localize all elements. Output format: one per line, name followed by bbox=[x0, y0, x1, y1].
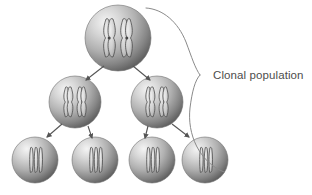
arrow-g2-to-g3-a bbox=[47, 124, 62, 137]
chromatid-left-b bbox=[94, 147, 98, 172]
chromosome-pair bbox=[90, 147, 103, 172]
chromatid-right-a bbox=[99, 147, 103, 172]
chromatid-right-a bbox=[39, 147, 43, 172]
chromosome-pair bbox=[147, 147, 160, 172]
chromosome-pair bbox=[30, 147, 43, 172]
chromatid-left-a bbox=[30, 147, 34, 172]
cell-g1-1 bbox=[85, 5, 151, 71]
cell-g3-2 bbox=[72, 137, 118, 183]
arrow-g1-to-g2-right bbox=[133, 66, 150, 80]
chromatid-left-a bbox=[200, 147, 204, 172]
chromatid-right-a bbox=[209, 147, 213, 172]
centromere-right bbox=[125, 37, 128, 40]
cell-g2-2 bbox=[131, 76, 183, 128]
chromatid-left-b bbox=[34, 147, 38, 172]
arrow-g2-to-g3-d bbox=[172, 124, 189, 137]
clonal-population-figure: Clonal population bbox=[0, 0, 312, 195]
cell-membrane bbox=[49, 76, 101, 128]
chromatid-right-a bbox=[156, 147, 160, 172]
cell-g2-1 bbox=[49, 76, 101, 128]
cell-g3-1 bbox=[12, 137, 58, 183]
clonal-population-label: Clonal population bbox=[213, 69, 304, 81]
bracket-upper-arm bbox=[146, 8, 200, 75]
chromatid-left-b bbox=[151, 147, 155, 172]
arrow-g2-to-g3-c bbox=[145, 126, 148, 138]
centromere-left bbox=[108, 37, 111, 40]
chromatid-left-a bbox=[90, 147, 94, 172]
cell-membrane bbox=[85, 5, 151, 71]
arrow-g1-to-g2-left bbox=[86, 66, 104, 80]
cell-g3-3 bbox=[129, 137, 175, 183]
cell-g3-4 bbox=[182, 137, 228, 183]
cell-membrane bbox=[131, 76, 183, 128]
chromatid-left-a bbox=[147, 147, 151, 172]
diagram-canvas: Clonal population bbox=[0, 0, 312, 195]
arrow-g2-to-g3-b bbox=[88, 126, 92, 138]
